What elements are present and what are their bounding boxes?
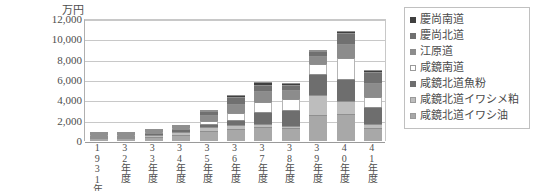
x-axis-tick: 38年度: [283, 142, 297, 182]
x-axis-tick: 33年度: [146, 142, 160, 182]
bar-segment[interactable]: [282, 128, 300, 141]
bar-column[interactable]: [337, 31, 355, 141]
bar-column[interactable]: [145, 129, 163, 141]
stacked-bar-chart: 万円 12,00010,0008,0006,0004,0002,0000 193…: [0, 0, 535, 191]
bar-segment[interactable]: [309, 95, 327, 114]
bar-segment[interactable]: [227, 113, 245, 120]
bar-segment[interactable]: [227, 129, 245, 141]
legend-swatch-icon: [410, 65, 416, 71]
legend-item[interactable]: 江原道: [410, 44, 526, 60]
legend-label: 慶尚北道: [420, 28, 464, 44]
legend-label: 慶尚南道: [420, 12, 464, 28]
bar-segment[interactable]: [364, 72, 382, 83]
bar-segment[interactable]: [254, 127, 272, 141]
bar-segment[interactable]: [90, 138, 108, 141]
legend-label: 咸鏡北道イワシ油: [420, 108, 508, 124]
legend-swatch-icon: [410, 33, 416, 39]
x-axis-tick: 1931年度: [91, 142, 105, 191]
bar-segment[interactable]: [337, 44, 355, 58]
x-axis-tick: 35年度: [201, 142, 215, 182]
legend-item[interactable]: 咸鏡北道イワシ油: [410, 108, 526, 124]
legend-label: 咸鏡北道イワシメ粕: [420, 92, 519, 108]
bar-segment[interactable]: [364, 83, 382, 97]
legend-swatch-icon: [410, 49, 416, 55]
legend-label: 咸鏡南道: [420, 60, 464, 76]
y-axis-tick: 10,000: [30, 34, 82, 45]
bar-segment[interactable]: [364, 107, 382, 124]
bar-series-container: [85, 20, 385, 141]
y-axis-tick: 2,000: [30, 116, 82, 127]
bar-column[interactable]: [172, 125, 190, 141]
bar-column[interactable]: [200, 110, 218, 141]
bar-column[interactable]: [117, 132, 135, 141]
legend-swatch-icon: [410, 113, 416, 119]
bar-segment[interactable]: [282, 90, 300, 100]
bar-segment[interactable]: [227, 97, 245, 105]
bar-segment[interactable]: [254, 112, 272, 124]
x-axis-tick: 40年度: [338, 142, 352, 182]
legend-item[interactable]: 咸鏡南道: [410, 60, 526, 76]
bar-segment[interactable]: [337, 101, 355, 114]
y-axis-tick: 4,000: [30, 95, 82, 106]
x-axis-tick: 37年度: [255, 142, 269, 182]
y-axis-tick: 6,000: [30, 75, 82, 86]
bar-segment[interactable]: [309, 64, 327, 74]
y-axis-tick: 12,000: [30, 14, 82, 25]
bar-segment[interactable]: [254, 91, 272, 102]
bar-segment[interactable]: [254, 102, 272, 112]
bar-segment[interactable]: [337, 114, 355, 141]
bar-segment[interactable]: [172, 135, 190, 141]
legend-label: 咸鏡北道魚粉: [420, 76, 486, 92]
legend-swatch-icon: [410, 17, 416, 23]
bar-segment[interactable]: [227, 104, 245, 113]
bar-segment[interactable]: [364, 128, 382, 141]
bar-segment[interactable]: [309, 56, 327, 64]
legend-item[interactable]: 慶尚北道: [410, 28, 526, 44]
bar-column[interactable]: [90, 132, 108, 141]
bar-column[interactable]: [309, 50, 327, 141]
chart-legend: 慶尚南道慶尚北道江原道咸鏡南道咸鏡北道魚粉咸鏡北道イワシメ粕咸鏡北道イワシ油: [404, 7, 530, 129]
x-axis-tick: 36年度: [228, 142, 242, 182]
bar-segment[interactable]: [337, 58, 355, 78]
x-axis-tick: 41年度: [365, 142, 379, 182]
bar-segment[interactable]: [309, 74, 327, 95]
x-axis-tick: 39年度: [310, 142, 324, 182]
legend-swatch-icon: [410, 81, 416, 87]
y-axis-tick: 8,000: [30, 55, 82, 66]
bar-segment[interactable]: [337, 79, 355, 101]
plot-area: [84, 19, 386, 141]
bar-column[interactable]: [282, 83, 300, 141]
bar-segment[interactable]: [364, 97, 382, 107]
x-axis-tick: 34年度: [173, 142, 187, 182]
legend-label: 江原道: [420, 44, 453, 60]
legend-item[interactable]: 慶尚南道: [410, 12, 526, 28]
bar-segment[interactable]: [337, 33, 355, 44]
bar-segment[interactable]: [145, 137, 163, 141]
x-axis-tick-labels: 1931年度32年度33年度34年度35年度36年度37年度38年度39年度40…: [84, 142, 386, 191]
y-axis-tick-labels: 12,00010,0008,0006,0004,0002,0000: [26, 19, 82, 141]
bar-column[interactable]: [364, 70, 382, 141]
bar-segment[interactable]: [200, 131, 218, 141]
legend-swatch-icon: [410, 97, 416, 103]
legend-item[interactable]: 咸鏡北道魚粉: [410, 76, 526, 92]
legend-item[interactable]: 咸鏡北道イワシメ粕: [410, 92, 526, 108]
y-axis-tick: 0: [30, 136, 82, 147]
bar-column[interactable]: [254, 82, 272, 141]
bar-segment[interactable]: [309, 115, 327, 141]
bar-segment[interactable]: [282, 99, 300, 109]
bar-segment[interactable]: [117, 138, 135, 141]
bar-segment[interactable]: [282, 110, 300, 127]
bar-column[interactable]: [227, 95, 245, 141]
x-axis-tick: 32年度: [118, 142, 132, 182]
